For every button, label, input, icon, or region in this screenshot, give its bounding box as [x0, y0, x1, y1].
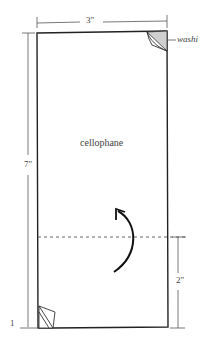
- cellophane-sheet: [37, 31, 168, 328]
- cellophane-fold-diagram: [0, 0, 209, 339]
- height-dimension: [22, 33, 35, 327]
- tape-label: washi: [177, 34, 198, 44]
- fold-label: 2": [176, 275, 184, 285]
- step-number: 1: [10, 318, 15, 328]
- width-label: 3": [86, 15, 94, 25]
- material-label: cellophane: [80, 137, 123, 148]
- height-label: 7": [24, 159, 32, 169]
- width-dimension: [37, 15, 167, 28]
